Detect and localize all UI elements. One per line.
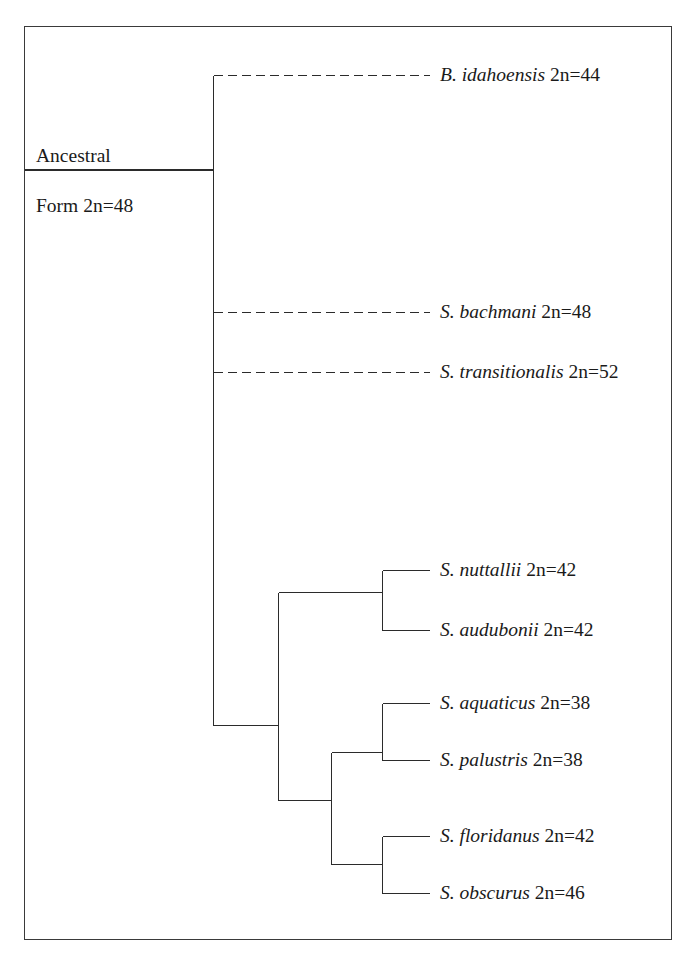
- taxon-chromosomes-s-bachmani: 2n=48: [541, 301, 591, 322]
- taxon-label-s-bachmani: S. bachmani 2n=48: [440, 302, 591, 322]
- taxon-chromosomes-b-idahoensis: 2n=44: [550, 64, 600, 85]
- taxon-name-s-floridanus: S. floridanus: [440, 825, 540, 846]
- taxon-label-s-floridanus: S. floridanus 2n=42: [440, 826, 595, 846]
- taxon-label-b-idahoensis: B. idahoensis 2n=44: [440, 65, 600, 85]
- taxon-label-s-aquaticus: S. aquaticus 2n=38: [440, 693, 590, 713]
- taxon-name-b-idahoensis: B. idahoensis: [440, 64, 545, 85]
- taxon-label-s-obscurus: S. obscurus 2n=46: [440, 883, 585, 903]
- ancestral-label-line1: Ancestral: [36, 146, 111, 166]
- taxon-chromosomes-s-floridanus: 2n=42: [545, 825, 595, 846]
- taxon-name-s-obscurus: S. obscurus: [440, 882, 530, 903]
- taxon-name-s-transitionalis: S. transitionalis: [440, 361, 564, 382]
- taxon-name-s-bachmani: S. bachmani: [440, 301, 536, 322]
- taxon-chromosomes-s-transitionalis: 2n=52: [568, 361, 618, 382]
- taxon-label-s-audubonii: S. audubonii 2n=42: [440, 620, 593, 640]
- taxon-chromosomes-s-audubonii: 2n=42: [543, 619, 593, 640]
- ancestral-label-line2: Form 2n=48: [36, 196, 133, 216]
- taxon-name-s-audubonii: S. audubonii: [440, 619, 539, 640]
- taxon-label-s-transitionalis: S. transitionalis 2n=52: [440, 362, 618, 382]
- taxon-name-s-aquaticus: S. aquaticus: [440, 692, 535, 713]
- taxon-chromosomes-s-nuttallii: 2n=42: [526, 559, 576, 580]
- taxon-label-s-nuttallii: S. nuttallii 2n=42: [440, 560, 576, 580]
- taxon-chromosomes-s-aquaticus: 2n=38: [540, 692, 590, 713]
- taxon-name-s-palustris: S. palustris: [440, 749, 528, 770]
- figure-border: [24, 26, 672, 940]
- phylogenetic-tree-figure: Ancestral Form 2n=48 B. idahoensis 2n=44…: [0, 0, 688, 959]
- taxon-label-s-palustris: S. palustris 2n=38: [440, 750, 583, 770]
- taxon-chromosomes-s-obscurus: 2n=46: [535, 882, 585, 903]
- taxon-name-s-nuttallii: S. nuttallii: [440, 559, 521, 580]
- taxon-chromosomes-s-palustris: 2n=38: [533, 749, 583, 770]
